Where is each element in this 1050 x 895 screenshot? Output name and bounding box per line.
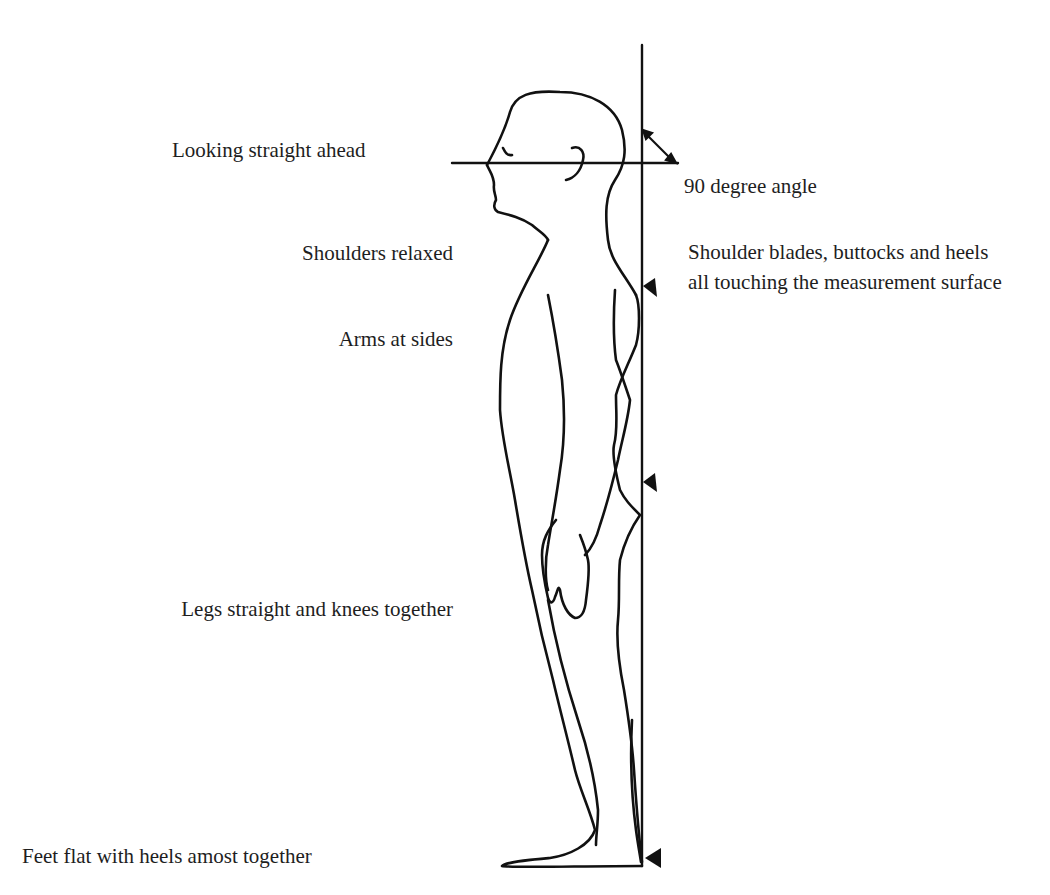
feet-label: Feet flat with heels amost together	[22, 842, 312, 870]
angle-label: 90 degree angle	[684, 172, 817, 200]
back-outline	[613, 295, 642, 862]
face-outline	[487, 165, 548, 240]
legs-label: Legs straight and knees together	[40, 595, 453, 623]
shoulder-contact-marker	[643, 278, 657, 297]
arm-back-outline	[585, 290, 630, 555]
arms-label: Arms at sides	[200, 325, 453, 353]
angle-arrow	[643, 130, 676, 163]
posture-diagram	[0, 0, 1050, 895]
head-outline	[487, 92, 636, 295]
contact-markers	[643, 278, 661, 868]
eye-mark	[503, 148, 512, 155]
heel-contact-marker	[645, 848, 661, 868]
contact-points-label: Shoulder blades, buttocks and heels all …	[688, 237, 1008, 297]
looking-ahead-label: Looking straight ahead	[172, 136, 452, 164]
buttocks-contact-marker	[643, 473, 657, 492]
leg-outline	[548, 600, 598, 845]
shoulders-label: Shoulders relaxed	[200, 239, 453, 267]
arm-outline	[546, 295, 564, 590]
